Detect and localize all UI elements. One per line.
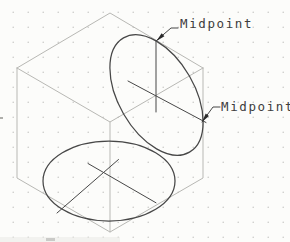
scan-smudge-bottom bbox=[0, 237, 120, 242]
cad-figure: Midpoint Midpoint bbox=[0, 0, 290, 242]
midpoint-label-top: Midpoint bbox=[180, 16, 253, 31]
midpoint-label-right: Midpoint bbox=[221, 99, 290, 114]
scan-speck-left bbox=[0, 117, 3, 119]
scan-speck-bottom bbox=[46, 238, 55, 241]
drawing-canvas: Midpoint Midpoint bbox=[0, 0, 290, 242]
